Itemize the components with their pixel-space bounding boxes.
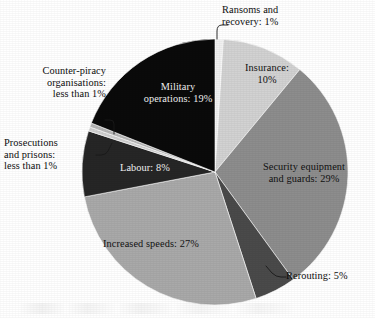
slice-label-ransoms-and-recovery: Ransoms and recovery: 1%: [222, 4, 352, 27]
slice-label-counter-piracy-organisations: Counter-piracy organisations: less than …: [2, 65, 106, 100]
slice-label-security-equipment-and-guards: Security equipment and guards: 29%: [240, 161, 368, 184]
slice-label-military-operations: Military operations: 19%: [124, 81, 232, 104]
slice-label-increased-speeds: Increased speeds: 27%: [103, 238, 253, 250]
slice-label-prosecutions-and-prisons: Prosecutions and prisons: less than 1%: [4, 137, 108, 172]
slice-label-insurance: Insurance: 10%: [228, 62, 306, 85]
slice-label-rerouting: Rerouting: 5%: [286, 270, 375, 282]
leader-line-ransoms: [217, 25, 228, 39]
slice-label-labour: Labour: 8%: [120, 162, 200, 174]
pie-chart-figure: Ransoms and recovery: 1% Insurance: 10% …: [0, 0, 375, 318]
